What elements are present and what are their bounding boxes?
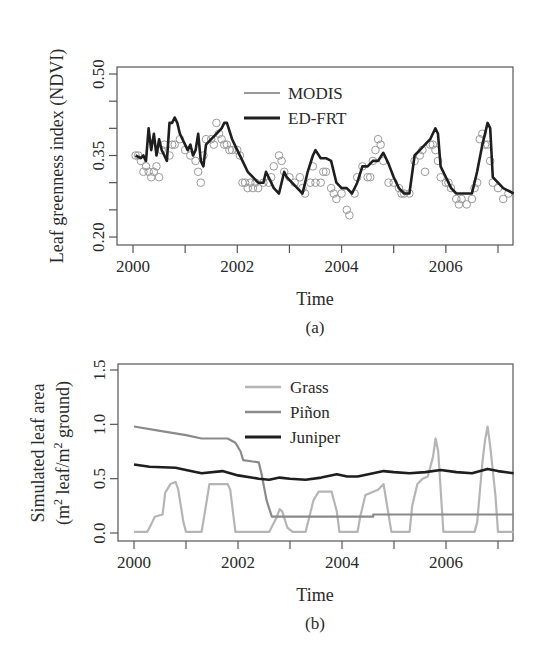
y-tick-label: 0.35 (89, 141, 108, 171)
data-point (194, 168, 202, 176)
x-axis-title-b: Time (296, 585, 333, 605)
data-point (192, 157, 200, 165)
x-tick-label: 2002 (221, 553, 255, 572)
legend-label-pinon: Piñon (290, 403, 330, 422)
panel-caption-b: (b) (305, 614, 325, 633)
y-tick-label: 0.50 (89, 59, 108, 89)
panel-b-chart: 0.00.51.01.5 2000200220042006 Grass Piño… (28, 359, 514, 633)
data-point (296, 173, 304, 181)
series-modis (132, 119, 512, 219)
y-tick-label: 1.5 (90, 359, 109, 380)
x-tick-label: 2004 (325, 257, 360, 276)
y-axis-b: 0.00.51.01.5 (90, 359, 118, 543)
panel-caption-a: (a) (306, 318, 325, 337)
x-tick-label: 2004 (325, 553, 360, 572)
plot-area-a (132, 118, 514, 220)
data-point (197, 179, 205, 187)
x-tick-label: 2006 (429, 257, 463, 276)
x-axis-title-a: Time (296, 289, 333, 309)
legend-label-grass: Grass (290, 378, 329, 397)
y-tick-label: 1.0 (90, 414, 109, 435)
data-point (421, 168, 429, 176)
data-point (155, 173, 163, 181)
y-axis-a: 0.200.350.50 (89, 59, 117, 252)
data-point (270, 163, 278, 171)
legend-label-modis: MODIS (288, 84, 343, 103)
data-point (213, 119, 221, 127)
x-tick-label: 2000 (117, 553, 151, 572)
y-tick-label: 0.20 (89, 222, 108, 252)
figure: 0.200.350.50 2000200220042006 MODIS ED-F… (0, 0, 544, 657)
series-juniper-line (134, 465, 514, 480)
legend-label-ed-frt: ED-FRT (288, 109, 347, 128)
panel-a-chart: 0.200.350.50 2000200220042006 MODIS ED-F… (47, 49, 514, 337)
y-tick-label: 0.0 (90, 522, 109, 543)
x-tick-label: 2002 (220, 257, 254, 276)
data-point (317, 179, 325, 187)
x-tick-label: 2006 (429, 553, 463, 572)
data-point (468, 195, 476, 203)
y-axis-title-b-line2: (m2 leaf/m2 ground) (51, 381, 74, 525)
legend-a: MODIS ED-FRT (244, 84, 347, 128)
x-axis-b: 2000200220042006 (117, 541, 498, 572)
y-axis-title-a: Leaf greenness index (NDVI) (47, 49, 68, 263)
y-axis-title-b-line1: Simulated leaf area (28, 384, 48, 523)
x-tick-label: 2000 (116, 257, 150, 276)
legend-label-juniper: Juniper (290, 428, 340, 447)
legend-b: Grass Piñon Juniper (245, 378, 340, 447)
y-tick-label: 0.5 (90, 468, 109, 489)
x-axis-a: 2000200220042006 (116, 245, 498, 276)
data-point (338, 190, 346, 198)
